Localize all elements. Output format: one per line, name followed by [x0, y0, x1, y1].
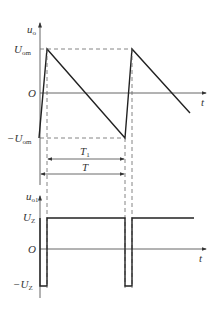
top-y-axis-label: uo: [27, 23, 37, 37]
top-t-axis-label: t: [201, 96, 205, 108]
bottom-tick-zero: O: [28, 243, 36, 255]
bottom-plot: uo1 t UZ O −UZ: [13, 190, 206, 298]
period-dimensions: T1 T: [41, 145, 124, 174]
top-plot: uo t Uom O −Uom: [7, 23, 206, 185]
bottom-y-axis-label: uo1: [26, 190, 39, 204]
pulse-waveform: [40, 218, 194, 286]
top-tick-zero: O: [28, 87, 36, 99]
bottom-tick-neg: −UZ: [13, 278, 33, 292]
top-tick-pos: Uom: [14, 43, 31, 57]
waveform-diagram: uo t Uom O −Uom T1 T uo1: [0, 0, 218, 314]
bottom-tick-pos: UZ: [23, 211, 35, 225]
bottom-t-axis-label: t: [199, 252, 203, 264]
t-label: T: [82, 161, 89, 173]
sawtooth-waveform: [39, 49, 190, 138]
t1-label: T1: [80, 145, 90, 159]
top-tick-neg: −Uom: [7, 132, 32, 146]
